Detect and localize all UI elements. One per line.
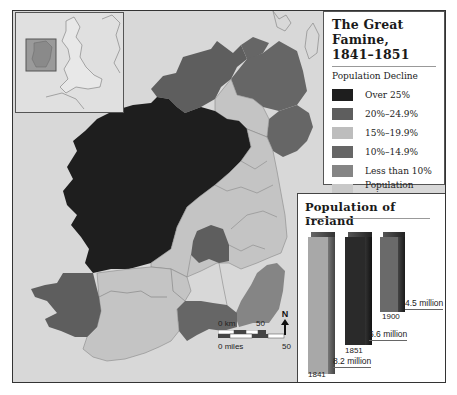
legend-item-20-24: 20%–24.9% — [332, 104, 436, 123]
legend-swatch — [332, 165, 353, 177]
county-kerry — [31, 273, 101, 337]
scale-km-label: 0 km — [218, 319, 235, 328]
legend-swatch — [332, 146, 353, 158]
bar-side — [398, 237, 405, 312]
inset-locator-map — [15, 12, 124, 113]
scale-km-value: 50 — [256, 319, 265, 328]
north-label: N — [278, 309, 292, 319]
legend-label: 15%–19.9% — [365, 128, 418, 138]
legend-title: The Great Famine, 1841–1851 — [332, 17, 436, 62]
legend-divider — [332, 66, 436, 67]
bar-year-1841: 1841 — [308, 370, 326, 379]
bar-value-1851: 6.6 million — [369, 329, 407, 341]
legend-swatch — [332, 127, 353, 139]
legend-item-10-14: 10%–14.9% — [332, 142, 436, 161]
legend-label: Less than 10% — [365, 166, 432, 176]
legend-label: 20%–24.9% — [365, 109, 418, 119]
bar-front — [308, 237, 328, 374]
legend-item-15-19: 15%–19.9% — [332, 123, 436, 142]
county-down-armagh — [267, 105, 313, 157]
map-frame: The Great Famine, 1841–1851 Population D… — [12, 10, 446, 383]
chart-title-divider — [306, 218, 430, 219]
bar-1841 — [308, 232, 338, 374]
legend-label: 10%–14.9% — [365, 147, 418, 157]
legend-swatch — [332, 89, 353, 101]
inset-map-graphic — [16, 13, 123, 112]
population-chart: Population of Ireland 1841 8.2 million 1… — [297, 193, 446, 383]
scale-bar: 0 km 50 0 miles 50 — [218, 319, 298, 359]
legend-subtitle: Population Decline — [332, 71, 436, 81]
bar-side — [328, 237, 335, 374]
chart-title: Population of Ireland — [305, 200, 445, 228]
scale-bar-graphic — [218, 330, 286, 340]
map-legend: The Great Famine, 1841–1851 Population D… — [323, 11, 445, 185]
bar-front — [380, 237, 398, 312]
scale-miles-value: 50 — [282, 342, 291, 351]
legend-title-line1: The Great Famine, — [332, 17, 436, 47]
legend-item-over-25: Over 25% — [332, 85, 436, 104]
bar-value-1841: 8.2 million — [333, 356, 371, 368]
legend-item-less-than-10: Less than 10% — [332, 161, 436, 180]
bar-year-1851: 1851 — [345, 346, 363, 355]
legend-swatch — [332, 108, 353, 120]
bar-value-1900: 4.5 million — [405, 298, 443, 310]
scale-miles-label: 0 miles — [218, 342, 243, 351]
legend-label: Over 25% — [365, 90, 410, 100]
legend-title-line2: 1841–1851 — [332, 47, 436, 62]
bar-year-1900: 1900 — [382, 312, 400, 321]
bar-front — [345, 237, 365, 345]
